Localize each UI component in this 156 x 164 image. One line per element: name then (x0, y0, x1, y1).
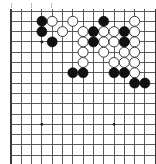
white-stone[interactable] (47, 16, 57, 26)
white-stone[interactable] (58, 27, 68, 37)
white-stone[interactable] (109, 58, 119, 68)
go-board-figure (0, 0, 156, 164)
black-stone[interactable] (78, 68, 88, 78)
black-stone[interactable] (119, 68, 129, 78)
black-stone[interactable] (119, 37, 129, 47)
black-stone[interactable] (130, 78, 140, 88)
star-point (41, 41, 44, 44)
white-stone[interactable] (119, 47, 129, 57)
white-stone[interactable] (130, 16, 140, 26)
black-stone[interactable] (119, 27, 129, 37)
white-stone[interactable] (78, 47, 88, 57)
white-stone[interactable] (78, 37, 88, 47)
go-board-canvas[interactable] (0, 0, 156, 164)
black-stone[interactable] (37, 27, 47, 37)
black-stone[interactable] (47, 37, 57, 47)
white-stone[interactable] (130, 27, 140, 37)
white-stone[interactable] (99, 27, 109, 37)
white-stone[interactable] (130, 37, 140, 47)
white-stone[interactable] (130, 68, 140, 78)
black-stone[interactable] (68, 68, 78, 78)
white-stone[interactable] (109, 27, 119, 37)
black-stone[interactable] (88, 27, 98, 37)
white-stone[interactable] (68, 16, 78, 26)
white-stone[interactable] (119, 58, 129, 68)
black-stone[interactable] (37, 16, 47, 26)
white-stone[interactable] (99, 37, 109, 47)
white-stone[interactable] (130, 58, 140, 68)
black-stone[interactable] (99, 16, 109, 26)
white-stone[interactable] (78, 27, 88, 37)
white-stone[interactable] (130, 47, 140, 57)
star-point (113, 123, 116, 126)
white-stone[interactable] (99, 47, 109, 57)
star-point (41, 123, 44, 126)
white-stone[interactable] (109, 37, 119, 47)
black-stone[interactable] (109, 68, 119, 78)
black-stone[interactable] (88, 37, 98, 47)
black-stone[interactable] (140, 78, 150, 88)
white-stone[interactable] (78, 58, 88, 68)
